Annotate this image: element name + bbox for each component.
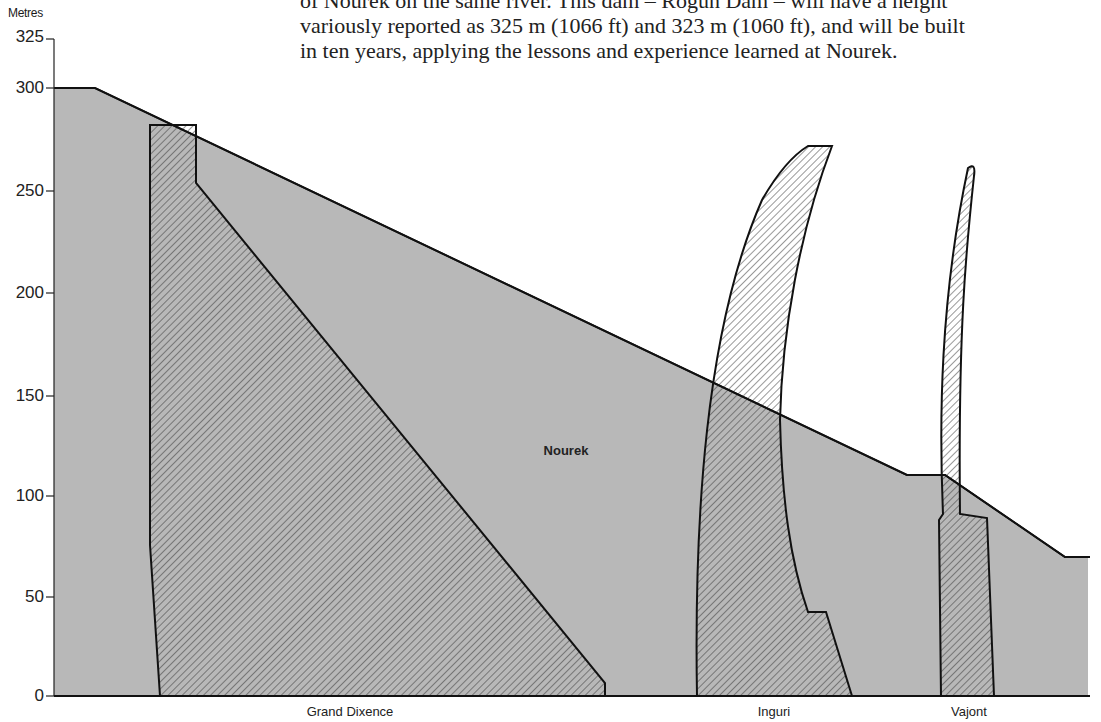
dam-profiles-diagram bbox=[0, 0, 1101, 722]
inguri-label: Inguri bbox=[758, 704, 791, 719]
vajont-profile bbox=[939, 166, 994, 696]
nourek-label: Nourek bbox=[544, 443, 589, 458]
vajont-label: Vajont bbox=[951, 704, 987, 719]
grand-dixence-label: Grand Dixence bbox=[307, 704, 394, 719]
y-ticks bbox=[46, 39, 54, 696]
